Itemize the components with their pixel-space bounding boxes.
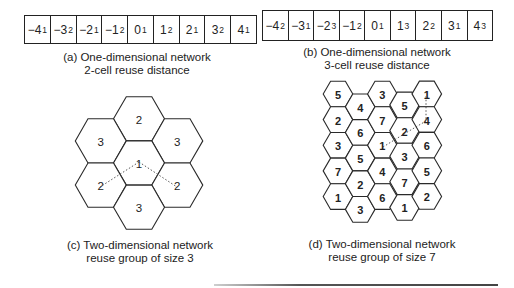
bottom-rule: [214, 284, 498, 286]
hex-channel-label: 6: [379, 192, 385, 204]
hex-channel-label: 5: [357, 153, 363, 165]
hex-channel-label: 1: [402, 202, 408, 214]
hex-channel-label: 4: [357, 102, 364, 114]
two-dim-network-reuse-3: 2331223: [75, 97, 203, 230]
hex-channel-label: 3: [98, 136, 104, 148]
hex-channel-label: 2: [335, 115, 341, 127]
hex-channel-label: 5: [424, 166, 430, 178]
hex-channel-label: 2: [424, 191, 430, 203]
hex-channel-label: 2: [357, 179, 363, 191]
caption-d-line1: (d) Two-dimensional network: [302, 238, 462, 251]
hex-channel-label: 7: [402, 177, 408, 189]
caption-c: (c) Two-dimensional network reuse group …: [60, 239, 220, 265]
hex-channel-label: 3: [357, 204, 363, 216]
hex-channel-label: 3: [174, 136, 180, 148]
hex-channel-label: 4: [424, 115, 431, 127]
hex-channel-label: 1: [136, 158, 142, 170]
hex-channel-label: 3: [335, 140, 341, 152]
hex-channel-label: 1: [379, 140, 385, 152]
hex-channel-label: 7: [335, 166, 341, 178]
hex-channel-label: 2: [136, 114, 142, 126]
two-dim-network-reuse-7: 5237146523371465237114652: [323, 81, 441, 222]
caption-d: (d) Two-dimensional network reuse group …: [302, 238, 462, 264]
caption-c-line2: reuse group of size 3: [60, 252, 220, 265]
hex-channel-label: 3: [379, 89, 385, 101]
hex-channel-label: 5: [402, 100, 408, 112]
caption-c-line1: (c) Two-dimensional network: [60, 239, 220, 252]
hex-channel-label: 1: [335, 192, 341, 204]
hex-channel-label: 5: [335, 89, 341, 101]
hex-channel-label: 6: [424, 140, 430, 152]
hex-channel-label: 3: [402, 151, 408, 163]
caption-d-line2: reuse group of size 7: [302, 251, 462, 264]
hex-channel-label: 6: [357, 127, 363, 139]
hex-channel-label: 3: [136, 202, 142, 214]
hex-channel-label: 4: [379, 166, 386, 178]
hex-channel-label: 7: [379, 115, 385, 127]
hex-channel-label: 2: [98, 180, 104, 192]
hex-channel-label: 2: [402, 126, 408, 138]
hex-channel-label: 1: [424, 89, 430, 101]
